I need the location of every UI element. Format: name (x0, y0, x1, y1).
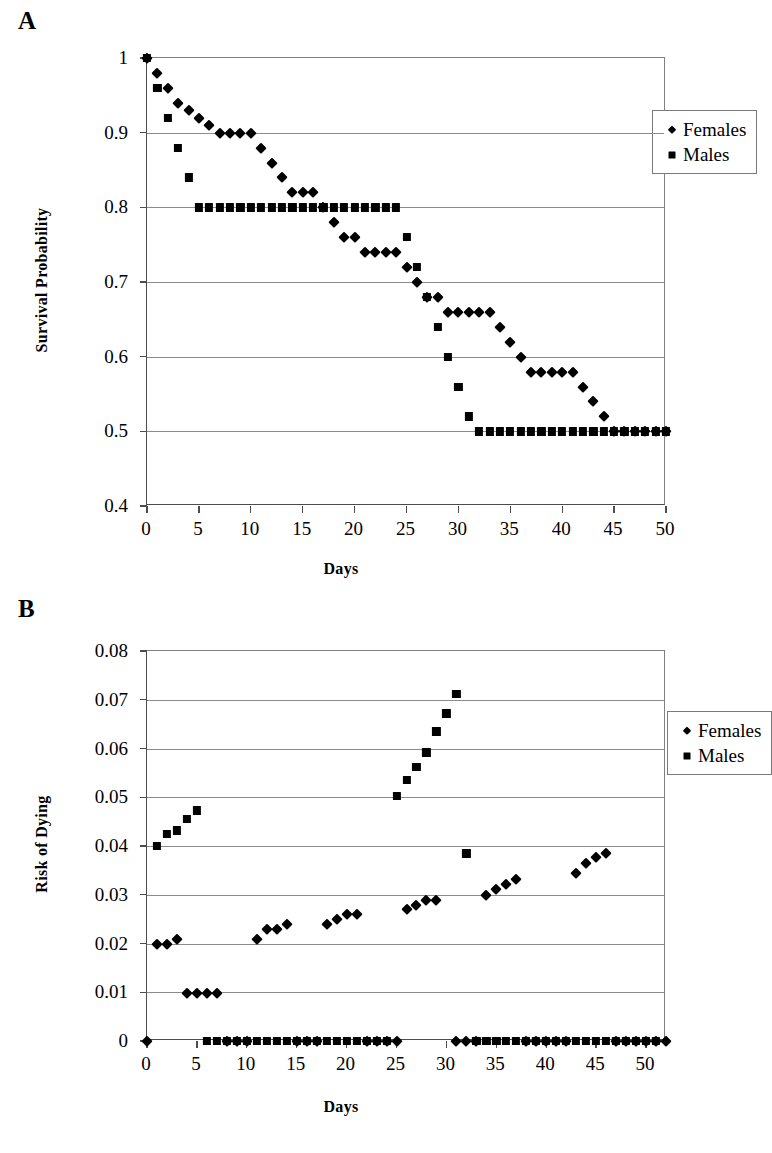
data-point-females (557, 366, 568, 377)
data-point-females (162, 938, 173, 949)
data-point-males (506, 427, 514, 435)
data-point-males (402, 776, 410, 784)
data-point-females (277, 172, 288, 183)
data-point-males (444, 353, 452, 361)
data-point-males (340, 203, 348, 211)
data-point-males (612, 1037, 620, 1045)
data-point-males (193, 806, 201, 814)
data-point-males (579, 427, 587, 435)
x-axis-tick (562, 506, 563, 513)
data-point-females (351, 909, 362, 920)
y-axis-tick-label: 0.03 (18, 885, 128, 904)
x-axis-tick (613, 506, 614, 513)
data-point-males (233, 1037, 241, 1045)
data-point-males (323, 1037, 331, 1045)
data-point-males (492, 1037, 500, 1045)
gridline-y (147, 357, 664, 358)
data-point-females (182, 988, 193, 999)
data-point-males (542, 1037, 550, 1045)
legend-item-females: Females (676, 718, 761, 743)
data-point-males (319, 203, 327, 211)
data-point-females (453, 306, 464, 317)
data-point-females (567, 366, 578, 377)
data-point-females (266, 157, 277, 168)
data-point-females (194, 112, 205, 123)
panel-a-plot-area: Females Males (146, 57, 665, 505)
data-point-males (184, 173, 192, 181)
data-point-females (287, 187, 298, 198)
data-point-females (152, 68, 163, 79)
data-point-females (598, 411, 609, 422)
data-point-females (481, 889, 492, 900)
data-point-males (153, 84, 161, 92)
y-axis-tick (140, 748, 147, 749)
data-point-females (245, 127, 256, 138)
y-axis-tick (140, 431, 147, 432)
data-point-females (380, 247, 391, 258)
data-point-males (392, 792, 400, 800)
y-axis-tick (140, 894, 147, 895)
y-axis-tick (140, 797, 147, 798)
data-point-males (226, 203, 234, 211)
gridline-y (147, 749, 664, 750)
data-point-females (360, 247, 371, 258)
legend-label-males: Males (698, 746, 744, 765)
data-point-males (195, 203, 203, 211)
data-point-males (330, 203, 338, 211)
panel-a: A Survival Probability Days Females Male… (0, 0, 682, 590)
x-axis-tick (406, 506, 407, 513)
panel-b-legend: Females Males (667, 711, 772, 775)
data-point-males (371, 203, 379, 211)
data-point-males (642, 1037, 650, 1045)
y-axis-tick-label: 0.01 (18, 982, 128, 1001)
data-point-males (263, 1037, 271, 1045)
y-axis-tick (140, 943, 147, 944)
data-point-males (652, 1037, 660, 1045)
data-point-males (662, 427, 670, 435)
y-axis-tick-label: 0.4 (18, 496, 128, 515)
data-point-females (495, 321, 506, 332)
legend-label-females: Females (698, 721, 761, 740)
data-point-males (517, 427, 525, 435)
x-axis-tick (196, 1041, 197, 1048)
x-axis-tick-label: 50 (635, 519, 695, 538)
data-point-males (243, 1037, 251, 1045)
data-point-females (192, 988, 203, 999)
legend-item-females: Females (661, 117, 746, 142)
x-axis-tick-label: 50 (615, 1054, 675, 1073)
data-point-males (465, 412, 473, 420)
data-point-males (333, 1037, 341, 1045)
panel-b-x-axis-title: Days (0, 1098, 682, 1116)
data-point-males (173, 826, 181, 834)
gridline-y (147, 282, 664, 283)
data-point-females (591, 852, 602, 863)
data-point-females (281, 919, 292, 930)
data-point-males (278, 203, 286, 211)
data-point-females (411, 899, 422, 910)
data-point-males (382, 203, 390, 211)
gridline-y (147, 992, 664, 993)
data-point-females (431, 894, 442, 905)
data-point-males (257, 203, 265, 211)
gridline-y (147, 700, 664, 701)
y-axis-tick-label: 0.6 (18, 347, 128, 366)
data-point-males (512, 1037, 520, 1045)
data-point-females (581, 858, 592, 869)
data-point-males (537, 427, 545, 435)
panel-b: B Risk of Dying Days Females Males 00.01… (0, 590, 682, 1153)
data-point-males (496, 427, 504, 435)
data-point-females (601, 848, 612, 859)
square-marker-icon (676, 749, 698, 763)
data-point-females (505, 336, 516, 347)
x-axis-tick (146, 506, 147, 513)
data-point-males (164, 114, 172, 122)
y-axis-tick (140, 845, 147, 846)
data-point-males (452, 690, 460, 698)
data-point-females (341, 909, 352, 920)
data-point-males (462, 849, 470, 857)
data-point-males (293, 1037, 301, 1045)
panel-a-label: A (18, 8, 36, 33)
data-point-males (582, 1037, 590, 1045)
data-point-males (361, 203, 369, 211)
data-point-females (271, 924, 282, 935)
